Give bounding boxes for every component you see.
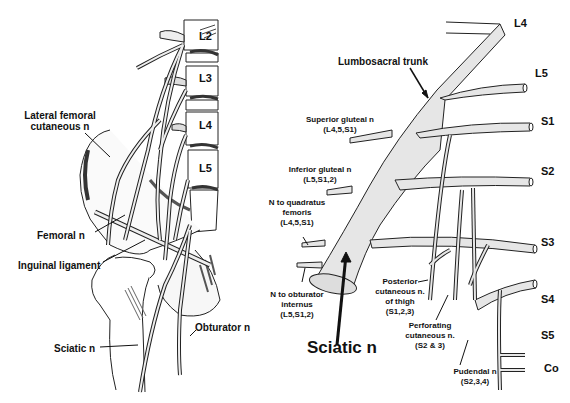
label-line: Lateral femoral [20, 110, 100, 121]
vertebra-label-l3: L3 [199, 73, 212, 84]
label-line: (L4,5,S1) [295, 125, 385, 135]
root-label-l4: L4 [514, 18, 527, 29]
label-line: (S2,3,4) [440, 377, 510, 387]
label-obturator-n: Obturator n [195, 322, 250, 333]
label-superior-gluteal-n: Superior gluteal n (L4,5,S1) [295, 115, 385, 135]
label-line: Pudendal n [440, 367, 510, 377]
label-sciatic-n-right: Sciatic n [307, 339, 377, 357]
label-pudendal-n: Pudendal n (S2,3,4) [440, 367, 510, 387]
label-lumbosacral-trunk: Lumbosacral trunk [338, 56, 428, 67]
label-line: Perforating [395, 321, 465, 331]
label-line: (L4,5,S1) [262, 218, 332, 228]
label-line: N to quadratus [262, 198, 332, 208]
label-line: of thigh [365, 297, 435, 307]
vertebra-label-l2: L2 [199, 31, 212, 42]
root-label-l5: L5 [535, 68, 548, 79]
root-label-s4: S4 [541, 294, 554, 305]
root-label-s1: S1 [541, 116, 554, 127]
root-label-s5: S5 [541, 330, 554, 341]
root-label-co: Co [544, 363, 559, 374]
label-line: cutaneous n. [395, 331, 465, 341]
label-posterior-cutaneous-n-of-thigh: Posterior cutaneous n. of thigh (S1,2,3) [365, 277, 435, 317]
label-line: Posterior [365, 277, 435, 287]
label-line: cutaneous n. [365, 287, 435, 297]
label-line: (L5,S1,2) [262, 310, 332, 320]
label-line: (L5,S1,2) [280, 175, 360, 185]
label-perforating-cutaneous-n: Perforating cutaneous n. (S2 & 3) [395, 321, 465, 351]
label-line: internus [262, 300, 332, 310]
label-line: femoris [262, 208, 332, 218]
label-n-to-quadratus-femoris: N to quadratus femoris (L4,5,S1) [262, 198, 332, 228]
label-line: (S2 & 3) [395, 341, 465, 351]
label-line: Inferior gluteal n [280, 165, 360, 175]
label-line: cutaneous n [20, 121, 100, 132]
label-line: (S1,2,3) [365, 307, 435, 317]
label-n-to-obturator-internus: N to obturator internus (L5,S1,2) [262, 290, 332, 320]
label-line: Superior gluteal n [295, 115, 385, 125]
label-line: N to obturator [262, 290, 332, 300]
root-label-s3: S3 [541, 237, 554, 248]
vertebra-label-l4: L4 [199, 120, 212, 131]
label-inguinal-ligament: Inguinal ligament [18, 260, 100, 271]
vertebra-label-l5: L5 [199, 163, 212, 174]
label-lateral-femoral-cutaneous-n: Lateral femoral cutaneous n [20, 110, 100, 132]
label-sciatic-n-left: Sciatic n [54, 343, 95, 354]
label-inferior-gluteal-n: Inferior gluteal n (L5,S1,2) [280, 165, 360, 185]
label-femoral-n: Femoral n [37, 230, 85, 241]
root-label-s2: S2 [541, 166, 554, 177]
